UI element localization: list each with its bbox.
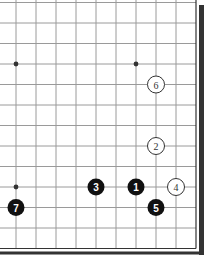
move-number: 5 — [153, 203, 159, 214]
star-point — [134, 62, 139, 67]
black-stone-3: 3 — [88, 179, 105, 196]
star-point — [14, 185, 19, 190]
go-board-diagram: 1234567 — [0, 0, 206, 255]
black-stone-5: 5 — [148, 199, 165, 216]
black-stone-1: 1 — [128, 179, 145, 196]
frame-bottom — [0, 252, 204, 255]
move-number: 4 — [174, 182, 179, 193]
move-number: 2 — [154, 141, 159, 152]
move-number: 6 — [154, 80, 159, 91]
frame-right — [199, 5, 204, 255]
board-grid: 1234567 — [0, 0, 206, 255]
white-stone-2: 2 — [148, 138, 165, 155]
white-stone-6: 6 — [148, 76, 165, 93]
move-number: 3 — [93, 182, 99, 193]
black-stone-7: 7 — [8, 199, 25, 216]
white-stone-4: 4 — [168, 179, 185, 196]
move-number: 7 — [13, 203, 19, 214]
move-number: 1 — [133, 182, 139, 193]
star-point — [14, 62, 19, 67]
